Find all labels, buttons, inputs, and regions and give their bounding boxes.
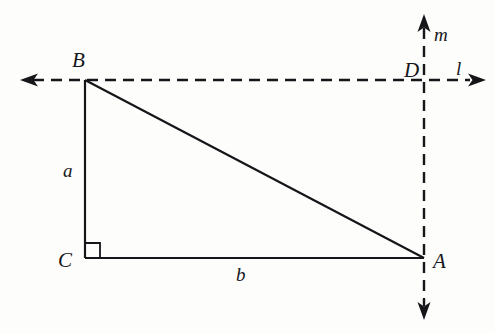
vertex-label-b: B [72, 50, 85, 71]
vertex-label-c: C [58, 250, 72, 271]
vertex-label-d: D [404, 60, 419, 81]
arrow-right-icon [468, 74, 486, 87]
geometry-figure: B C A D a b m l [0, 0, 495, 334]
line-label-m: m [434, 25, 448, 44]
side-label-b: b [236, 265, 246, 284]
side-label-a: a [63, 161, 73, 180]
segment-ba-hypotenuse [85, 80, 424, 258]
line-label-l: l [456, 59, 461, 78]
right-angle-marker [85, 243, 100, 258]
vertex-label-a: A [433, 251, 446, 272]
